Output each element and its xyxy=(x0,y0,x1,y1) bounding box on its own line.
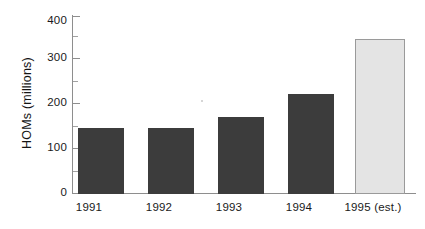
x-tick-label-1994: 1994 xyxy=(271,201,327,213)
y-tick-label-400: 400 xyxy=(28,14,67,26)
y-tick-label-200: 200 xyxy=(28,96,67,108)
x-tick-label-1993: 1993 xyxy=(201,201,257,213)
bar-1994 xyxy=(288,94,334,194)
bar-chart-figure: HOMs (millions) 400 300 200 100 0 1991 1… xyxy=(0,0,425,229)
x-tick-label-1992: 1992 xyxy=(131,201,187,213)
y-tick-label-300: 300 xyxy=(28,51,67,63)
bar-1993 xyxy=(218,117,264,194)
x-tick-label-1991: 1991 xyxy=(61,201,117,213)
y-tick-label-100: 100 xyxy=(28,141,67,153)
plot-area xyxy=(73,14,418,194)
bar-1992 xyxy=(148,128,194,194)
x-tick-label-1995-est: 1995 (est.) xyxy=(327,201,419,213)
y-tick-label-0: 0 xyxy=(28,186,67,198)
bar-1991 xyxy=(78,128,124,194)
bar-1995-est xyxy=(355,39,405,194)
